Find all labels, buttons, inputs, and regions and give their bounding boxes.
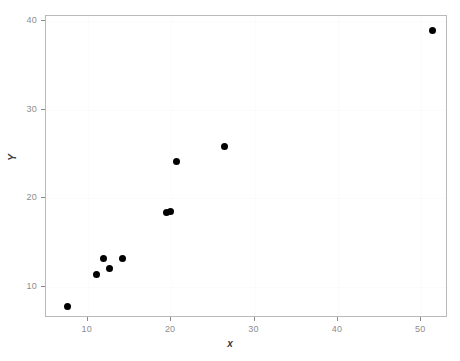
scatter-plot-figure: 1020304050 10203040 x Y bbox=[0, 0, 460, 361]
data-point bbox=[64, 303, 71, 310]
gridline-horizontal bbox=[46, 198, 446, 199]
data-point bbox=[106, 265, 113, 272]
y-tick-mark bbox=[41, 109, 45, 110]
x-tick-mark bbox=[170, 317, 171, 321]
data-point bbox=[100, 255, 107, 262]
gridline-horizontal bbox=[46, 21, 446, 22]
data-point bbox=[429, 27, 436, 34]
plot-area bbox=[45, 15, 447, 317]
x-tick-label: 30 bbox=[248, 324, 258, 334]
x-tick-label: 20 bbox=[165, 324, 175, 334]
y-tick-label: 40 bbox=[27, 15, 37, 25]
y-tick-mark bbox=[41, 197, 45, 198]
data-point bbox=[173, 158, 180, 165]
gridline-vertical bbox=[338, 16, 339, 316]
x-tick-mark bbox=[337, 317, 338, 321]
gridline-vertical bbox=[255, 16, 256, 316]
x-tick-label: 40 bbox=[332, 324, 342, 334]
y-tick-mark bbox=[41, 286, 45, 287]
data-point bbox=[221, 143, 228, 150]
data-point bbox=[167, 208, 174, 215]
gridline-horizontal bbox=[46, 287, 446, 288]
y-tick-label: 20 bbox=[27, 192, 37, 202]
x-tick-mark bbox=[254, 317, 255, 321]
y-tick-label: 10 bbox=[27, 281, 37, 291]
x-tick-mark bbox=[87, 317, 88, 321]
gridline-vertical bbox=[421, 16, 422, 316]
x-axis-label: x bbox=[0, 338, 460, 349]
y-tick-label: 30 bbox=[27, 104, 37, 114]
y-axis-label: Y bbox=[7, 154, 18, 161]
x-tick-mark bbox=[420, 317, 421, 321]
data-point bbox=[119, 255, 126, 262]
gridline-vertical bbox=[171, 16, 172, 316]
data-point bbox=[93, 271, 100, 278]
gridline-horizontal bbox=[46, 110, 446, 111]
y-tick-mark bbox=[41, 20, 45, 21]
x-tick-label: 10 bbox=[81, 324, 91, 334]
gridline-vertical bbox=[88, 16, 89, 316]
x-tick-label: 50 bbox=[415, 324, 425, 334]
